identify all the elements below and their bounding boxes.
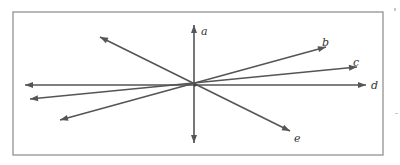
arrowhead-icon: [60, 115, 69, 121]
lines-layer: [25, 25, 366, 143]
arrowhead-icon: [281, 125, 290, 131]
line-label-b: b: [322, 36, 329, 49]
scan-artifact: [394, 8, 396, 11]
intersecting-lines-diagram: a b c d e: [0, 0, 400, 165]
diagram-frame: [13, 12, 383, 155]
line-label-d: d: [371, 79, 378, 92]
arrowhead-icon: [191, 135, 197, 143]
arrowhead-icon: [100, 37, 109, 43]
arrowhead-icon: [358, 82, 366, 88]
arrowhead-icon: [191, 25, 197, 33]
line-label-a: a: [201, 25, 208, 38]
line-label-c: c: [353, 56, 359, 69]
line-label-e: e: [294, 132, 301, 145]
scan-artifact: [395, 113, 398, 114]
arrowhead-icon: [25, 82, 33, 88]
intersection-point: [193, 83, 196, 86]
